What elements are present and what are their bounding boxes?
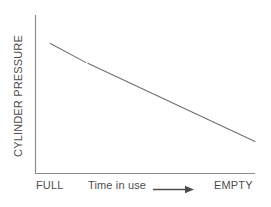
x-axis-tick-empty: EMPTY bbox=[214, 180, 253, 191]
x-axis-title-label: Time in use bbox=[88, 180, 146, 191]
data-line-segment-1 bbox=[50, 43, 85, 62]
x-axis-tick-full: FULL bbox=[36, 180, 64, 191]
data-line-segment-2 bbox=[88, 63, 255, 141]
chart-canvas bbox=[0, 0, 271, 207]
cylinder-pressure-chart: CYLINDER PRESSURE FULL Time in use EMPTY bbox=[0, 0, 271, 207]
y-axis-label: CYLINDER PRESSURE bbox=[13, 16, 24, 176]
right-arrow-icon bbox=[153, 181, 195, 190]
x-axis-title: Time in use bbox=[88, 180, 195, 191]
